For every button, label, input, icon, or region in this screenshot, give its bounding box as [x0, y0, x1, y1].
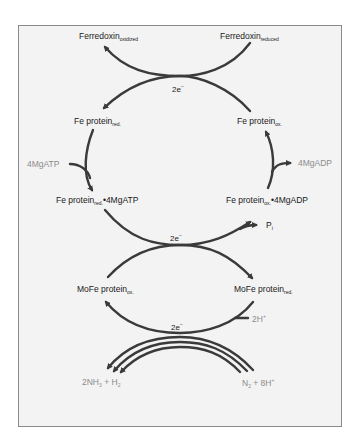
- label-mofe-protein-ox: MoFe proteinox.: [77, 285, 134, 295]
- label-mofe-protein-red: MoFe proteinred.: [234, 285, 293, 295]
- label-fe-protein-red-atp: Fe proteinred.•4MgATP: [56, 196, 138, 206]
- label-2h: 2H+: [252, 314, 266, 324]
- diagram-arrows: [0, 0, 361, 445]
- label-mgadp: 4MgADP: [298, 159, 332, 168]
- label-mgatp: 4MgATP: [27, 160, 59, 169]
- arrow-mgadp-out: [272, 163, 290, 172]
- label-substrates: N2 + 8H+: [242, 378, 274, 389]
- label-electrons-bottom: 2e−: [171, 322, 183, 332]
- label-fe-protein-ox-adp: Fe proteinox.•4MgADP: [226, 196, 308, 206]
- label-pi: Pi: [266, 221, 273, 231]
- label-ferredoxin-oxidized: Ferredoxinoxidized: [79, 32, 138, 42]
- label-ferredoxin-reduced: Ferredoxinreduced: [220, 32, 279, 42]
- label-electrons-middle: 2e−: [170, 233, 182, 243]
- label-products: 2NH3 + H2: [82, 378, 120, 388]
- label-fe-protein-red: Fe proteinred.: [74, 117, 121, 127]
- arrow-adp-complex-to-fe-ox: [266, 132, 273, 188]
- label-fe-protein-ox: Fe proteinox.: [237, 117, 282, 127]
- arrow-ferredoxin-to-oxidized: [105, 43, 250, 76]
- arrow-fe-red-to-atp-complex: [86, 130, 93, 190]
- arrow-mofe-ox-to-red: [108, 245, 252, 278]
- label-electrons-top: 2e−: [172, 84, 184, 94]
